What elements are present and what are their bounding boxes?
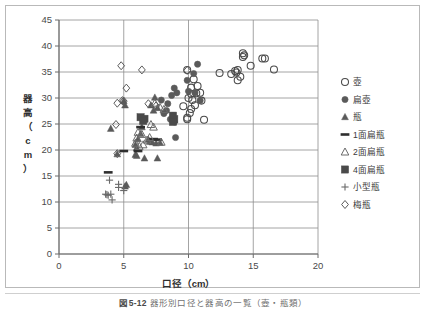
point-filled-circle <box>191 70 197 76</box>
y-tick-label: 35 <box>41 66 52 77</box>
point-filled-circle <box>172 134 178 140</box>
x-tick-label: 5 <box>121 260 126 271</box>
point-filled-circle <box>197 98 203 104</box>
point-open-circle <box>180 103 187 110</box>
point-filled-square <box>341 166 348 173</box>
legend-item[interactable]: 扁壺 <box>342 94 371 105</box>
point-filled-square <box>169 118 176 125</box>
legend-item-label: 壺 <box>353 76 362 87</box>
series-group <box>180 50 278 124</box>
y-tick-label: 40 <box>41 40 52 51</box>
point-filled-circle <box>169 92 175 98</box>
y-tick-label: 15 <box>41 170 52 181</box>
y-axis-title-char: m <box>24 149 32 160</box>
y-axis-title-char: 器 <box>22 93 33 104</box>
legend-item[interactable]: 瓶 <box>342 111 362 122</box>
legend-item[interactable]: 壺 <box>342 76 363 87</box>
point-open-circle <box>216 70 223 77</box>
point-filled-circle <box>165 101 171 107</box>
series-group <box>158 61 203 141</box>
point-filled-circle <box>161 111 167 117</box>
scatter-chart: 051015202530354045 05101520 口径（cm）器高（cm）… <box>0 0 427 292</box>
point-open-circle <box>194 83 201 90</box>
point-filled-square <box>140 117 147 124</box>
legend-item-label: 梅瓶 <box>353 199 371 210</box>
y-tick-label: 45 <box>41 14 52 25</box>
y-tick-label: 0 <box>47 248 52 259</box>
point-filled-circle <box>192 90 198 96</box>
point-filled-triangle <box>342 113 349 119</box>
x-tick-label: 15 <box>248 260 259 271</box>
point-filled-triangle <box>141 155 148 161</box>
y-tick-label: 25 <box>41 118 52 129</box>
x-tick-label: 0 <box>56 260 61 271</box>
point-open-circle <box>201 116 208 123</box>
point-filled-triangle <box>154 155 161 161</box>
x-tick-label: 10 <box>183 260 194 271</box>
x-tick-label: 20 <box>313 260 324 271</box>
point-open-diamond <box>113 121 120 129</box>
point-open-circle <box>342 79 349 86</box>
point-filled-triangle <box>107 125 114 131</box>
point-open-diamond <box>138 66 145 74</box>
x-axis-title: 口径（cm） <box>162 278 216 289</box>
legend-item[interactable]: 梅瓶 <box>342 199 371 210</box>
legend-item-label: 扁壺 <box>353 94 371 105</box>
y-axis-title-char: ） <box>23 163 33 174</box>
point-filled-circle <box>185 88 191 94</box>
figure-page: 051015202530354045 05101520 口径（cm）器高（cm）… <box>0 0 427 309</box>
y-axis-title-char: （ <box>23 121 33 132</box>
point-open-triangle <box>341 148 349 155</box>
legend-item-label: 4面扁瓶 <box>353 164 385 175</box>
legend-item-label: 小型瓶 <box>353 181 380 192</box>
grid-layer <box>59 20 318 254</box>
point-open-diamond <box>342 201 349 209</box>
point-filled-circle <box>342 96 348 102</box>
legend: 壺扁壺瓶1面扁瓶2面扁瓶4面扁瓶小型瓶梅瓶 <box>341 76 385 210</box>
y-tick-label: 5 <box>47 222 52 233</box>
y-tick-label: 30 <box>41 92 52 103</box>
caption-divider <box>5 293 420 294</box>
y-axis-title-char: 高 <box>23 107 33 118</box>
y-tick-label: 10 <box>41 196 52 207</box>
legend-item[interactable]: 1面扁瓶 <box>341 129 385 140</box>
y-axis-tick-labels: 051015202530354045 <box>41 14 59 259</box>
data-points-layer <box>102 50 277 204</box>
figure-caption: 図5-12 器形別口径と器高の一覧（壺・瓶類） <box>0 296 427 309</box>
point-filled-circle <box>158 97 164 103</box>
y-axis-title-char: c <box>25 135 30 146</box>
legend-item[interactable]: 4面扁瓶 <box>341 164 384 175</box>
series-group <box>137 112 178 125</box>
legend-item-label: 1面扁瓶 <box>353 129 385 140</box>
y-tick-label: 20 <box>41 144 52 155</box>
figure-caption-text: 器形別口径と器高の一覧（壺・瓶類） <box>150 298 308 308</box>
x-axis-tick-labels: 05101520 <box>56 254 323 271</box>
figure-caption-number: 図5-12 <box>119 298 147 308</box>
legend-item[interactable]: 小型瓶 <box>341 181 380 192</box>
point-filled-circle <box>184 77 190 83</box>
legend-item-label: 瓶 <box>353 111 362 122</box>
legend-item[interactable]: 2面扁瓶 <box>341 146 385 157</box>
legend-item-label: 2面扁瓶 <box>353 146 385 157</box>
point-filled-circle <box>194 61 200 67</box>
